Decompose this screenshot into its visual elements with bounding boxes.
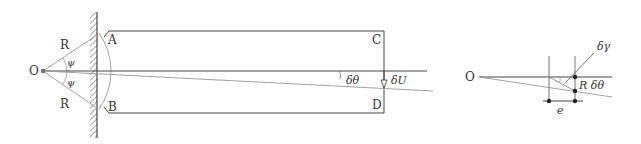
rotation-label: δθ (346, 74, 360, 87)
corner-label-a: A (107, 33, 117, 47)
hatched-wall (90, 12, 97, 138)
pivot-point (41, 69, 45, 73)
pivot-label-right: O (465, 70, 475, 84)
radius-label-upper: R (60, 38, 70, 52)
node-mid (573, 89, 577, 93)
node-bottom-left (547, 99, 551, 103)
corner-label-c: C (372, 33, 381, 47)
diagram-canvas: O R R ψ ψ A B C D δθ δU O δγ R δθ e (0, 0, 641, 144)
displacement-label: δU (391, 74, 408, 87)
shear-line (549, 77, 575, 91)
corner-label-b: B (108, 100, 117, 114)
right-figure: O δγ R δθ e (465, 40, 612, 117)
node-top (573, 75, 577, 79)
left-figure: O R R ψ ψ A B C D δθ δU (29, 12, 433, 138)
radius-label-lower: R (60, 97, 70, 111)
pivot-label: O (29, 64, 39, 78)
displacement-arrow-head (381, 80, 387, 88)
beam-rectangle (104, 31, 384, 113)
rotation-angle-arc (339, 71, 341, 79)
angle-label-lower: ψ (67, 77, 75, 88)
rotated-axis (43, 71, 433, 91)
node-bottom-right (573, 99, 577, 103)
arc-length-label: R δθ (578, 79, 604, 92)
offset-label: e (557, 104, 564, 117)
angle-label-upper: ψ (67, 57, 75, 68)
corner-label-d: D (372, 98, 382, 112)
shear-label: δγ (597, 40, 611, 53)
